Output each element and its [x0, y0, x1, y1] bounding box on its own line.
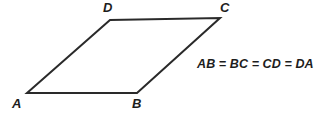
rhombus-outline	[27, 18, 220, 93]
side-equality-annotation: AB = BC = CD = DA	[197, 57, 314, 71]
vertex-label-c: C	[220, 1, 229, 14]
vertex-label-d: D	[103, 1, 112, 14]
diagram-canvas: D C A B AB = BC = CD = DA	[0, 0, 332, 119]
vertex-label-a: A	[12, 97, 21, 110]
vertex-label-b: B	[132, 97, 141, 110]
